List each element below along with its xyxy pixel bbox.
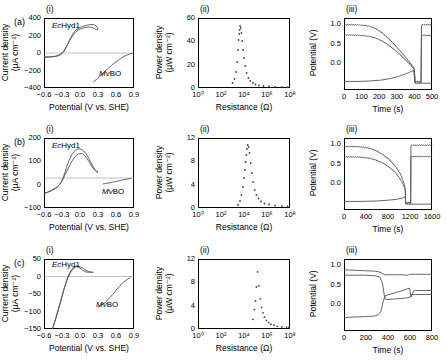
enzyme-name: BO <box>110 69 122 78</box>
x-axis-label: Potential (V vs. SHE) <box>44 223 134 232</box>
data-point <box>245 161 247 163</box>
data-point <box>236 61 238 63</box>
data-point <box>244 65 246 67</box>
curve-EcHyd1-reverse <box>44 27 98 57</box>
organism-prefix: Ec <box>52 141 61 150</box>
panel-number: (iii) <box>346 125 357 134</box>
data-point <box>239 25 241 27</box>
data-point <box>264 316 266 318</box>
data-point <box>268 322 270 324</box>
x-tick-label: 10⁸ <box>277 211 303 219</box>
y-axis-label: Potential (V) <box>309 245 319 343</box>
y-tick-label: 400 <box>14 14 41 22</box>
curve-EcHyd1-forward <box>44 149 98 194</box>
data-point <box>262 312 264 314</box>
data-point <box>288 326 290 328</box>
y-tick-label: 0 <box>14 273 41 281</box>
y-tick-label: 20 <box>168 61 195 69</box>
y-tick-label: 200 <box>14 134 41 142</box>
data-point <box>241 32 243 34</box>
x-tick-label: 10⁸ <box>277 332 303 340</box>
data-point <box>246 72 248 74</box>
panel-number: (i) <box>46 125 54 134</box>
data-point <box>237 204 239 206</box>
data-point <box>281 86 283 88</box>
data-point <box>260 201 262 203</box>
figure-row-b: (b)(i)Current density(µA cm⁻²)Potential … <box>0 120 447 240</box>
data-point <box>256 194 258 196</box>
data-point <box>242 186 244 188</box>
y-tick-label: 0.0 <box>314 59 341 67</box>
organism-prefix: Ec <box>52 21 61 30</box>
data-point <box>241 194 243 196</box>
y-axis-label: Potential (V) <box>309 4 319 102</box>
x-tick-label: 500 <box>419 93 445 101</box>
organism-prefix: Mv <box>96 300 107 309</box>
x-tick-label: 0.9 <box>121 211 147 219</box>
plot-canvas <box>44 259 134 329</box>
data-point <box>242 49 244 51</box>
plot-canvas <box>344 18 432 90</box>
data-point <box>273 324 275 326</box>
y-tick-label: 50 <box>14 255 41 263</box>
curve-label-MvBO: MvBO <box>99 70 121 78</box>
y-tick-label: 100 <box>14 157 41 165</box>
data-point <box>287 206 289 208</box>
plot-canvas <box>344 138 432 210</box>
panel-number: (ii) <box>200 246 209 255</box>
data-point <box>252 181 254 183</box>
data-point <box>243 177 245 179</box>
y-tick-label: 8 <box>168 157 195 165</box>
figure-row-c: (c)(i)Current density(µA cm⁻²)Potential … <box>0 241 447 361</box>
data-point <box>251 172 253 174</box>
x-axis-label: Potential (V vs. SHE) <box>44 103 134 112</box>
x-axis-label: Time (s) <box>344 225 432 234</box>
curve-label-EcHyd1: EcHyd1 <box>52 261 80 269</box>
data-point <box>249 152 251 154</box>
curve-label-EcHyd1: EcHyd1 <box>52 142 80 150</box>
organism-prefix: Ec <box>52 260 61 269</box>
y-axis-label: Potential (V) <box>309 124 319 222</box>
y-tick-label: −200 <box>14 67 41 75</box>
panel-number: (i) <box>46 5 54 14</box>
data-point <box>266 319 268 321</box>
y-tick-label: 4 <box>168 302 195 310</box>
panel-number: (ii) <box>200 125 209 134</box>
curve-EcHyd1-reverse <box>52 266 93 329</box>
figure-root: (a)(i)Current density(µA cm⁻²)Potential … <box>0 0 447 362</box>
curve-EcHyd1-forward <box>52 267 93 329</box>
data-point <box>243 57 245 59</box>
y-tick-label: 12 <box>168 134 195 142</box>
y-axis-label-main: Power density <box>154 146 164 199</box>
data-point <box>257 271 259 273</box>
data-point <box>246 148 248 150</box>
enzyme-name: Hyd1 <box>61 260 80 269</box>
data-point <box>286 326 288 328</box>
data-point <box>254 189 256 191</box>
data-point <box>274 205 276 207</box>
data-point <box>255 84 257 86</box>
data-point <box>235 71 237 73</box>
plot-canvas <box>198 259 290 329</box>
data-point <box>253 309 255 311</box>
organism-prefix: Mv <box>102 187 113 196</box>
trace-anode-potential-lower <box>344 197 432 205</box>
y-tick-label: 8 <box>168 278 195 286</box>
data-point <box>241 40 243 42</box>
data-point <box>256 286 258 288</box>
data-point <box>247 144 249 146</box>
x-tick-label: 800 <box>419 334 445 342</box>
y-tick-label: 0.5 <box>314 281 341 289</box>
y-tick-label: 1.0 <box>314 140 341 148</box>
data-point <box>239 29 241 31</box>
data-point <box>258 198 260 200</box>
data-point <box>239 200 241 202</box>
data-point <box>276 325 278 327</box>
data-point <box>245 154 247 156</box>
data-point <box>237 49 239 51</box>
enzyme-name: Hyd1 <box>61 141 80 150</box>
data-point <box>238 33 240 35</box>
y-tick-label: 1.0 <box>314 20 341 28</box>
y-tick-label: 60 <box>168 14 195 22</box>
trace-anode-potential-lower <box>344 288 432 317</box>
